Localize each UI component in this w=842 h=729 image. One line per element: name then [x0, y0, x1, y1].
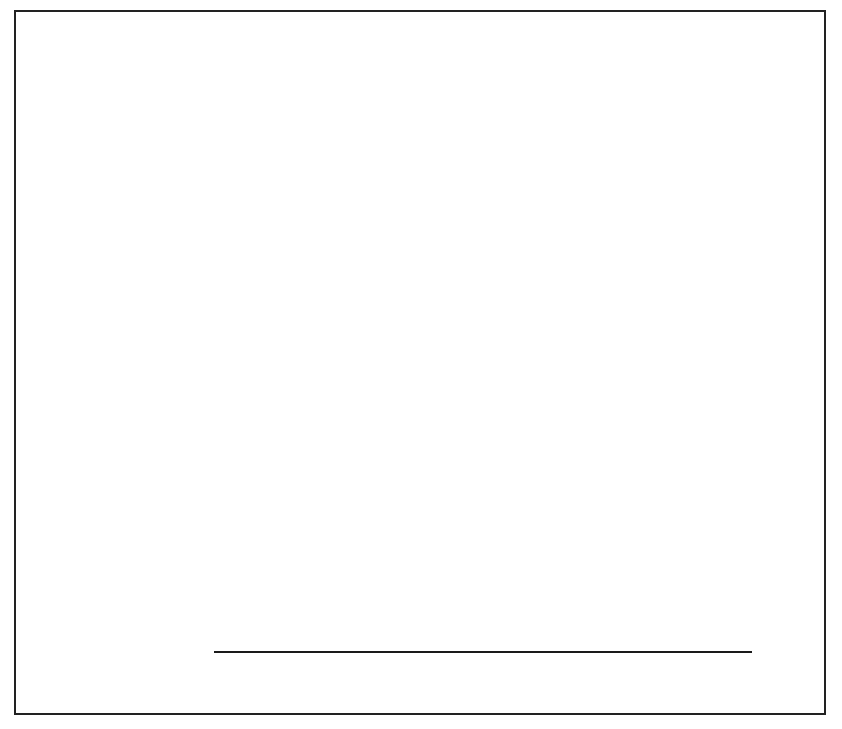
- x-axis: [214, 651, 752, 685]
- chart-plot-area: [16, 12, 828, 717]
- x-axis-line: [214, 651, 752, 653]
- figure-frame: [14, 10, 826, 715]
